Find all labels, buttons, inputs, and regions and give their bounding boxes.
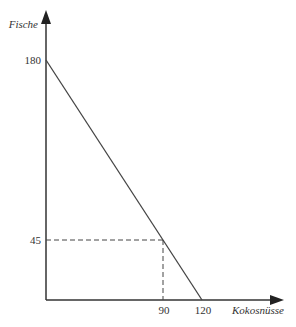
y-tick-45: 45 [30,234,42,246]
x-tick-120: 120 [195,304,212,316]
x-axis-label: Kokosnüsse [231,304,284,316]
ppf-line [46,60,202,300]
y-tick-180: 180 [25,54,42,66]
x-tick-90: 90 [159,304,171,316]
chart: Fische Kokosnüsse 180 45 90 120 [0,0,296,327]
y-axis-label: Fische [8,18,38,30]
y-axis-arrow-icon [41,10,51,24]
